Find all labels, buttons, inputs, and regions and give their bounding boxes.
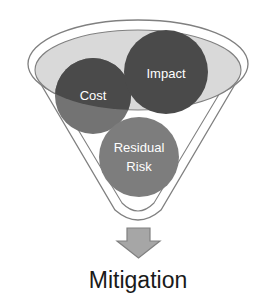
funnel-diagram: Cost Impact Residual Risk Mitigation [0,0,276,297]
input-circle-impact[interactable]: Impact [124,30,208,114]
input-circle-residual-risk[interactable]: Residual Risk [99,117,179,197]
residual-risk-circle-shape [99,117,179,197]
down-arrow-icon [117,228,160,258]
impact-circle-shape [124,30,208,114]
funnel-graphic: Cost Impact Residual Risk Mitigation [0,0,276,297]
outcome-label: Mitigation [89,267,187,293]
